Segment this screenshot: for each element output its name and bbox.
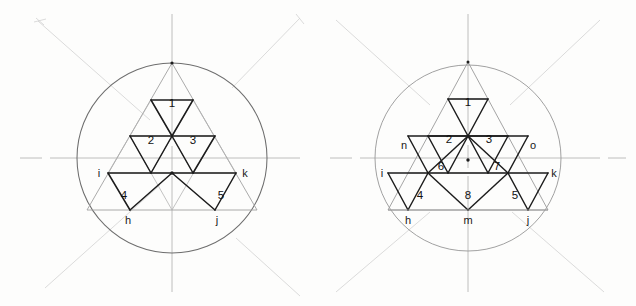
vertex-label: i — [98, 167, 100, 179]
region-number: 3 — [486, 133, 492, 145]
center-dot-right — [466, 158, 469, 161]
vertex-label: j — [215, 214, 218, 226]
region-numbers-right: 1 2 3 6 7 4 8 5 — [417, 96, 518, 201]
region-number: 6 — [438, 160, 444, 172]
construction-drawing: 1 2 3 4 5 i k h j — [0, 0, 636, 306]
vertex-label: n — [401, 139, 407, 151]
vertex-label: i — [381, 167, 383, 179]
vertex-label: h — [405, 214, 411, 226]
region-number: 5 — [512, 189, 518, 201]
vertex-label: j — [526, 214, 529, 226]
apex-dot-left — [170, 61, 173, 64]
region-number: 2 — [148, 134, 154, 146]
region-numbers-left: 1 2 3 4 5 — [121, 97, 224, 201]
figure-left: 1 2 3 4 5 i k h j — [20, 14, 300, 292]
region-number: 3 — [190, 134, 196, 146]
vertex-label: o — [530, 139, 536, 151]
region-number: 1 — [169, 97, 175, 109]
drawing-canvas: 1 2 3 4 5 i k h j — [0, 0, 636, 306]
vertex-label: k — [551, 167, 557, 179]
region-number: 7 — [494, 160, 500, 172]
region-number: 4 — [417, 189, 424, 201]
vertex-labels-right: n o i k h m j — [381, 139, 557, 226]
region-number: 1 — [465, 96, 471, 108]
vertex-label: h — [125, 214, 131, 226]
faint-construction-lines-left — [34, 14, 304, 296]
region-number: 4 — [121, 189, 128, 201]
region-number: 2 — [446, 133, 452, 145]
region-number: 8 — [465, 189, 471, 201]
region-number: 5 — [218, 189, 224, 201]
apex-dot-right — [467, 61, 470, 64]
center-dot-left — [170, 171, 173, 174]
vertex-label: m — [463, 214, 472, 226]
figure-right: 1 2 3 6 7 4 8 5 n o i k h m j — [330, 14, 626, 292]
vertex-label: k — [242, 167, 248, 179]
